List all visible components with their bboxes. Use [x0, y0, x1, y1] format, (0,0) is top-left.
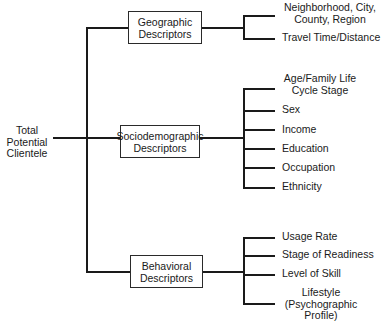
root-node-total-potential-clientele: Total Potential Clientele: [2, 125, 52, 160]
geographic-branch-line: [243, 38, 275, 40]
behavioral-branch-line: [243, 274, 275, 276]
root-label-line: Total: [2, 125, 52, 137]
sociodemographic-item-education: Education: [282, 143, 329, 155]
behavioral-branch-line: [243, 303, 275, 305]
sociodemographic-out-line: [200, 137, 244, 139]
behavioral-branch-line: [243, 255, 275, 257]
item-line: Sex: [282, 103, 300, 115]
sociodemographic-branch-line: [243, 167, 275, 169]
root-label-line: Clientele: [2, 148, 52, 160]
behavioral-descriptors-box: Behavioral Descriptors: [130, 255, 203, 288]
box-title-line: Descriptors: [138, 28, 192, 40]
box-title-line: Geographic: [138, 16, 192, 28]
geographic-item-neighborhood: Neighborhood, City, County, Region: [278, 2, 382, 25]
item-line: Stage of Readiness: [282, 248, 374, 260]
box-title-line: Behavioral: [140, 260, 193, 272]
geographic-branch-line: [243, 15, 275, 17]
sociodemographic-item-occupation: Occupation: [282, 162, 335, 174]
sociodemographic-branch-line: [243, 129, 275, 131]
trunk-to-sociodemographic-line: [86, 137, 120, 139]
item-line: Lifestyle: [278, 287, 364, 299]
trunk-to-behavioral-line: [86, 271, 130, 273]
sociodemographic-item-age-family: Age/Family Life Cycle Stage: [280, 73, 360, 96]
trunk-to-geographic-line: [86, 27, 128, 29]
item-line: Occupation: [282, 161, 335, 173]
item-line: Neighborhood, City,: [278, 2, 382, 14]
behavioral-branch-line: [243, 237, 275, 239]
box-title-line: Descriptors: [140, 272, 193, 284]
behavioral-item-level-of-skill: Level of Skill: [282, 268, 341, 280]
box-title-line: Descriptors: [117, 142, 204, 154]
item-line: Age/Family Life: [280, 73, 360, 85]
item-line: Travel Time/Distance: [282, 31, 380, 43]
behavioral-out-line: [203, 271, 244, 273]
item-line: Income: [282, 123, 316, 135]
item-line: Level of Skill: [282, 267, 341, 279]
sociodemographic-item-sex: Sex: [282, 104, 300, 116]
sociodemographic-branch-line: [243, 187, 275, 189]
item-line: Profile): [278, 310, 364, 322]
sociodemographic-item-income: Income: [282, 124, 316, 136]
sociodemographic-branch-line: [243, 148, 275, 150]
behavioral-bracket-line: [243, 237, 245, 304]
geographic-descriptors-box: Geographic Descriptors: [128, 11, 202, 44]
sociodemographic-branch-line: [243, 110, 275, 112]
item-line: Usage Rate: [282, 230, 337, 242]
root-connector-line: [53, 137, 87, 139]
geographic-out-line: [202, 27, 244, 29]
item-line: Ethnicity: [282, 180, 322, 192]
geographic-bracket-line: [243, 15, 245, 39]
geographic-item-travel-time: Travel Time/Distance: [282, 32, 380, 44]
item-line: County, Region: [278, 14, 382, 26]
sociodemographic-bracket-line: [243, 88, 245, 188]
item-line: Education: [282, 142, 329, 154]
sociodemographic-branch-line: [243, 88, 275, 90]
behavioral-item-stage-of-readiness: Stage of Readiness: [282, 249, 374, 261]
behavioral-item-lifestyle: Lifestyle (Psychographic Profile): [278, 287, 364, 322]
sociodemographic-descriptors-box: Sociodemographic Descriptors: [120, 125, 200, 158]
item-line: Cycle Stage: [280, 85, 360, 97]
sociodemographic-item-ethnicity: Ethnicity: [282, 181, 322, 193]
behavioral-item-usage-rate: Usage Rate: [282, 231, 337, 243]
box-title-line: Sociodemographic: [117, 130, 204, 142]
main-trunk-line: [86, 27, 88, 272]
